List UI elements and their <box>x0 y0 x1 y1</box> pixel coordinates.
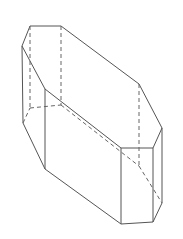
visible-edge <box>139 84 162 128</box>
hidden-edges <box>23 26 162 203</box>
visible-edge <box>22 46 23 123</box>
hidden-edge <box>23 108 30 123</box>
visible-edges <box>22 26 162 224</box>
hidden-edge <box>61 105 139 166</box>
visible-edge <box>153 203 162 222</box>
visible-edge <box>45 89 121 148</box>
visible-edge <box>22 46 45 89</box>
visible-edge <box>45 169 121 224</box>
visible-edge <box>61 26 139 84</box>
visible-edge <box>23 123 45 169</box>
visible-edge <box>22 26 30 46</box>
visible-edge <box>153 128 162 148</box>
hidden-edge <box>139 166 162 203</box>
visible-edge <box>121 222 153 224</box>
prism-figure <box>0 0 183 239</box>
